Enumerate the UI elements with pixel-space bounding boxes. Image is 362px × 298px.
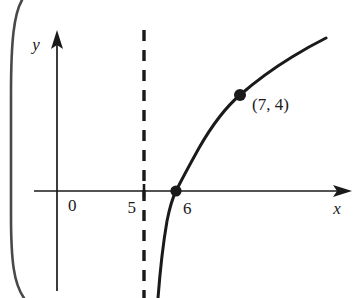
point-coordinate-label: (7, 4) bbox=[252, 95, 289, 114]
y-axis-label: y bbox=[30, 35, 40, 54]
tick-label-six: 6 bbox=[183, 199, 192, 218]
point-marker-x-intercept bbox=[170, 185, 181, 196]
graph-figure: y x 0 5 6 (7, 4) bbox=[0, 0, 362, 298]
scan-page-edge-artifact bbox=[11, 0, 24, 298]
tick-label-five: 5 bbox=[128, 198, 137, 217]
function-curve bbox=[158, 38, 326, 298]
x-axis-label: x bbox=[332, 199, 341, 218]
point-marker-seven-four bbox=[234, 89, 246, 101]
tick-label-zero: 0 bbox=[68, 196, 77, 215]
coordinate-plane-svg: y x 0 5 6 (7, 4) bbox=[0, 0, 362, 298]
